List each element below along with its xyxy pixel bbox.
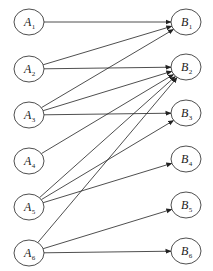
edge-a6-to-b5 <box>43 209 172 248</box>
node-a3: A3 <box>14 102 44 128</box>
node-b6: B6 <box>171 238 201 264</box>
node-a2: A2 <box>14 56 44 82</box>
edge-a3-to-b2 <box>43 71 172 110</box>
edge-a5-to-b4 <box>43 163 172 202</box>
bipartite-graph-diagram: A1A2A3A4A5A6B1B2B3B4B5B6 <box>0 0 213 271</box>
node-b5: B5 <box>171 192 201 218</box>
node-a4: A4 <box>14 148 44 174</box>
node-a5: A5 <box>14 194 44 220</box>
node-a1: A1 <box>14 9 44 35</box>
edge-a2-to-b1 <box>43 26 172 65</box>
edge-a6-to-b2 <box>38 77 177 242</box>
node-a6: A6 <box>14 240 44 266</box>
edge-a5-to-b2 <box>39 76 175 197</box>
node-b2: B2 <box>171 54 201 80</box>
edges-group <box>38 22 177 253</box>
edge-a6-to-b6 <box>44 251 171 253</box>
node-b3: B3 <box>171 100 201 126</box>
graph-svg: A1A2A3A4A5A6B1B2B3B4B5B6 <box>0 0 213 271</box>
node-b1: B1 <box>171 9 201 35</box>
edge-a4-to-b2 <box>41 74 173 153</box>
node-b4: B4 <box>171 146 201 172</box>
